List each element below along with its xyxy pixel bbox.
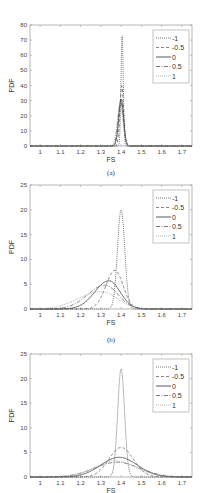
legend-label: 1 [172, 233, 176, 240]
legend-label: 0.5 [172, 223, 182, 230]
legend-label: -0.5 [172, 204, 184, 211]
y-tick-label: 60 [20, 52, 27, 58]
series-line-1 [30, 461, 192, 477]
x-tick-label: 1.1 [56, 149, 65, 155]
series-line-0 [30, 99, 192, 146]
legend-label: 0 [172, 383, 176, 390]
y-tick-label: 20 [20, 113, 27, 119]
y-axis-label: PDF [8, 409, 15, 423]
chart-panel-2: 11.11.21.31.41.51.61.70510152025FSPDF-1-… [8, 182, 192, 344]
y-tick-label: 10 [20, 256, 27, 262]
panel-caption: (a) [107, 169, 115, 177]
x-tick-label: 1.1 [56, 312, 65, 318]
legend-label: -1 [172, 35, 178, 42]
y-tick-label: 10 [20, 128, 27, 134]
x-tick-label: 1.4 [117, 312, 126, 318]
x-tick-label: 1 [38, 480, 42, 486]
y-tick-label: 15 [20, 232, 27, 238]
legend-label: 0 [172, 214, 176, 221]
x-axis-label: FS [107, 156, 116, 163]
legend-label: 0.5 [172, 392, 182, 399]
series-line-0.5 [30, 102, 192, 146]
y-tick-label: 0 [24, 143, 28, 149]
x-axis-label: FS [107, 319, 116, 326]
legend-label: 0 [172, 54, 176, 61]
x-tick-label: 1.6 [157, 480, 166, 486]
series-line--0.5 [30, 86, 192, 146]
x-tick-label: 1.3 [97, 149, 106, 155]
y-tick-label: 5 [24, 281, 28, 287]
y-axis-label: PDF [8, 79, 15, 93]
legend-label: 1 [172, 402, 176, 409]
y-tick-label: 15 [20, 400, 27, 406]
y-tick-label: 25 [20, 182, 27, 188]
x-tick-label: 1.2 [76, 480, 85, 486]
y-tick-label: 80 [20, 22, 27, 28]
series-line--0.5 [30, 270, 192, 309]
chart-panel-3: 11.11.21.31.41.51.61.70510152025FSPDF-1-… [8, 351, 192, 493]
x-tick-label: 1.3 [97, 480, 106, 486]
x-tick-label: 1 [38, 149, 42, 155]
y-tick-label: 0 [24, 474, 28, 480]
x-tick-label: 1.2 [76, 149, 85, 155]
x-tick-label: 1.5 [137, 480, 146, 486]
y-tick-label: 10 [20, 425, 27, 431]
legend-label: -1 [172, 364, 178, 371]
x-tick-label: 1.5 [137, 149, 146, 155]
legend-label: 0.5 [172, 63, 182, 70]
series-line-1 [30, 104, 192, 146]
x-tick-label: 1.1 [56, 480, 65, 486]
x-tick-label: 1.5 [137, 312, 146, 318]
y-tick-label: 50 [20, 67, 27, 73]
y-tick-label: 20 [20, 207, 27, 213]
y-tick-label: 0 [24, 306, 28, 312]
panel-caption: (b) [107, 336, 116, 344]
series-line-0.5 [30, 462, 192, 477]
y-tick-label: 5 [24, 449, 28, 455]
legend-label: 1 [172, 73, 176, 80]
x-tick-label: 1.2 [76, 312, 85, 318]
y-tick-label: 70 [20, 37, 27, 43]
chart-panel-1: 11.11.21.31.41.51.61.701020304050607080F… [8, 22, 192, 177]
series-line--0.5 [30, 447, 192, 477]
figure: 11.11.21.31.41.51.61.701020304050607080F… [0, 0, 206, 493]
y-tick-label: 40 [20, 83, 27, 89]
legend-label: -0.5 [172, 44, 184, 51]
x-tick-label: 1.7 [178, 149, 187, 155]
x-axis-label: FS [107, 487, 116, 493]
x-tick-label: 1 [38, 312, 42, 318]
legend-label: -1 [172, 195, 178, 202]
x-tick-label: 1.4 [117, 480, 126, 486]
x-tick-label: 1.7 [178, 312, 187, 318]
legend-label: -0.5 [172, 373, 184, 380]
series-line-0 [30, 457, 192, 477]
y-tick-label: 20 [20, 376, 27, 382]
x-tick-label: 1.6 [157, 312, 166, 318]
series-line-0.5 [30, 285, 192, 309]
x-tick-label: 1.3 [97, 312, 106, 318]
x-tick-label: 1.7 [178, 480, 187, 486]
y-tick-label: 25 [20, 351, 27, 357]
x-tick-label: 1.6 [157, 149, 166, 155]
x-tick-label: 1.4 [117, 149, 126, 155]
y-axis-label: PDF [8, 240, 15, 254]
y-tick-label: 30 [20, 98, 27, 104]
